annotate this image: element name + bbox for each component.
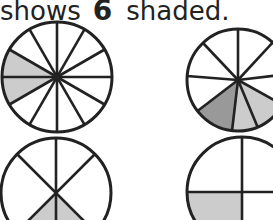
circle-top-left[interactable] <box>2 22 112 132</box>
fraction-circles <box>0 0 273 220</box>
circle-bottom-left[interactable] <box>1 138 111 220</box>
circle-bottom-right[interactable] <box>187 137 273 220</box>
circle-top-right[interactable] <box>187 29 273 132</box>
